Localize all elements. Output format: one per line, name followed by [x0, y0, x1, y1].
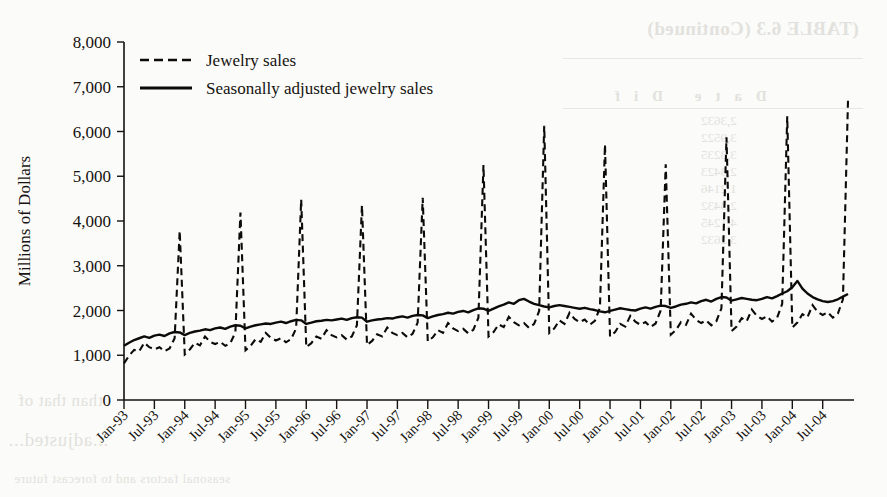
- x-axis-tick-label: Jan-99: [457, 407, 496, 446]
- chart-legend: Jewelry salesSeasonally adjusted jewelry…: [140, 51, 433, 98]
- y-axis-tick-label: 0: [103, 391, 112, 410]
- y-axis-tick-label: 4,000: [73, 212, 111, 231]
- y-axis-tick-label: 3,000: [73, 257, 111, 276]
- x-axis-tick-label: Jan-02: [639, 407, 678, 446]
- x-axis-tick-label: Jan-94: [153, 406, 192, 445]
- x-axis-tick-label: Jan-93: [92, 407, 131, 446]
- x-axis-tick-label: Jul-04: [793, 406, 830, 443]
- figure-container: (TABLE 6.3 (Continued) Date Dif 2,36323,…: [0, 0, 887, 497]
- y-axis-tick-label: 1,000: [73, 346, 111, 365]
- x-axis-tick-label: Jan-03: [700, 407, 739, 446]
- y-axis-tick-label: 5,000: [73, 167, 111, 186]
- x-axis-tick-label: Jan-95: [214, 407, 253, 446]
- x-axis-tick-label: Jan-98: [396, 407, 435, 446]
- y-axis: 01,0002,0003,0004,0005,0006,0007,0008,00…: [73, 33, 124, 410]
- y-axis-tick-label: 7,000: [73, 78, 111, 97]
- y-axis-title: Millions of Dollars: [15, 156, 34, 286]
- y-axis-tick-label: 2,000: [73, 302, 111, 321]
- y-axis-tick-label: 8,000: [73, 33, 111, 52]
- line-chart: 01,0002,0003,0004,0005,0006,0007,0008,00…: [0, 0, 887, 497]
- series-line: [124, 101, 848, 364]
- legend-label: Seasonally adjusted jewelry sales: [206, 79, 433, 98]
- legend-label: Jewelry sales: [206, 51, 296, 70]
- series-group: [124, 101, 848, 364]
- x-axis-tick-label: Jan-00: [518, 407, 557, 446]
- x-axis-tick-label: Jan-04: [761, 406, 800, 445]
- x-axis-tick-label: Jan-01: [579, 407, 618, 446]
- x-axis: Jan-93Jul-93Jan-94Jul-94Jan-95Jul-95Jan-…: [92, 400, 854, 445]
- x-axis-tick-label: Jan-96: [275, 407, 314, 446]
- y-axis-tick-label: 6,000: [73, 123, 111, 142]
- x-axis-tick-label: Jan-97: [335, 407, 374, 446]
